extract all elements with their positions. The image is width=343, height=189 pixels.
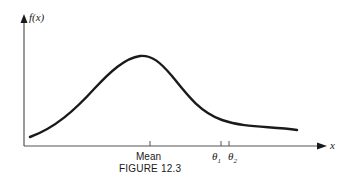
tick-label-mean: Mean (136, 151, 161, 162)
tick-label-theta2: θ2 (228, 150, 237, 165)
density-figure (0, 0, 343, 189)
y-axis-label: f(x) (29, 11, 44, 23)
x-axis-label: x (330, 139, 335, 151)
density-curve (30, 56, 297, 137)
tick-label-theta1: θ1 (212, 150, 221, 165)
x-axis-arrow-icon (317, 143, 327, 150)
figure-caption: FIGURE 12.3 (119, 163, 181, 174)
y-axis-arrow-icon (21, 14, 28, 23)
